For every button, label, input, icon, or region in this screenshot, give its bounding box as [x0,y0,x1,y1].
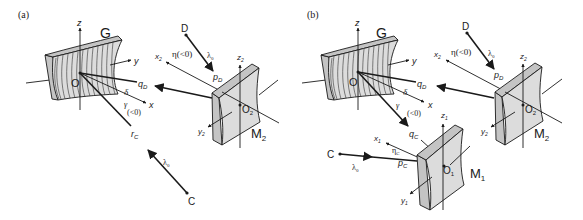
qd-label: qD [138,79,148,90]
rc-label: rC [131,129,139,140]
b-x-axis-label: x [427,100,433,110]
panel-a: (a) G z y [18,9,279,207]
grating-g [45,36,122,100]
ray-c-to-rc [148,150,187,193]
diagram-canvas: (a) G z y [0,0,583,220]
b-pd-label: pD [493,70,504,81]
b-lambda0-d-label: λ0 [488,49,495,59]
point-c-label: C [188,196,195,207]
b-delta-label: δ [403,87,408,97]
z-axis-label: z [76,18,82,28]
b-m2-axis-right [542,79,562,94]
x2-label: x2 [154,52,162,62]
b-origin-label: O [349,76,358,88]
grating-g-b [321,36,398,100]
b-x2-label: x2 [433,50,441,60]
b-etac-label: ηC [392,146,400,156]
m2-axis-right [259,80,278,95]
origin-label: O [71,77,80,89]
b-qc-label: qC [409,129,419,140]
b-y1-label: y1 [400,196,408,206]
b-ray-m2-to-qd [437,86,494,98]
panel-a-label: (a) [18,9,29,21]
z2-label: z2 [236,53,244,63]
point-c [185,191,188,194]
b-x1-label: x1 [373,134,381,144]
eta-label: η(<0) [172,49,192,59]
panel-b-label: (b) [307,9,319,21]
x-axis-label: x [148,100,154,110]
delta-label: δ [124,87,129,97]
b-y-axis-label: y [411,56,417,66]
b-m2-label: M2 [534,126,550,143]
b-qd-label: qD [417,79,427,90]
b-eta-label: η(<0) [451,47,471,57]
ray-m2-to-qd [155,86,212,98]
lambda0-d-label: λ0 [207,51,214,61]
b-gamma-label: γ [396,101,400,110]
b-z-axis-label: z [354,18,360,28]
pd-label: pD [212,72,223,83]
y-axis-label: y [133,56,139,66]
b-z1-label: z1 [440,111,448,121]
point-d-label: D [181,23,188,34]
b-z2-label: z2 [519,52,527,62]
grating-label: G [100,25,111,41]
b-m1-label: M1 [470,166,486,183]
b-gamma-note: (<0) [407,109,421,118]
b-point-c-label: C [327,149,334,160]
gamma-note: (<0) [127,108,141,117]
mirror-m1 [417,125,464,210]
b-ray-c [340,154,372,157]
b-y2-label: y2 [480,127,488,137]
b-point-d-label: D [462,21,469,32]
panel-b: (b) G z y O x [302,9,562,210]
m2-label: M2 [251,126,267,143]
b-grating-label: G [376,25,387,41]
lambda0-c-label: λ0 [163,158,170,168]
b-ray-c-pc [372,157,417,161]
b-lambda0-c-label: λ0 [352,163,359,173]
y2-label: y2 [197,127,205,137]
